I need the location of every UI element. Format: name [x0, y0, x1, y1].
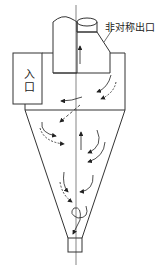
asymmetric-outlet-top: [77, 18, 97, 26]
cone-vortex-arrow-2: [60, 182, 72, 202]
short-circuit-arrow-2: [101, 82, 116, 99]
cone-vortex-arrow-1: [64, 172, 69, 192]
asymmetric-outlet-label: 非对称出口: [105, 23, 155, 33]
diagonal-arrow: [60, 105, 80, 122]
outlet-pipe: [53, 17, 77, 73]
left-vortex-arrow-1: [42, 122, 56, 136]
right-vortex-arrow-1: [88, 130, 99, 153]
short-circuit-arrow-1: [97, 75, 111, 92]
top-left-arrow: [61, 97, 82, 101]
outlet-pipe-right: [53, 22, 110, 73]
dust-outlet: [68, 238, 82, 252]
cyclone-diagram: [0, 0, 164, 275]
cone-vortex-arrow-3: [80, 175, 93, 192]
inlet-label: 入口: [22, 68, 36, 94]
